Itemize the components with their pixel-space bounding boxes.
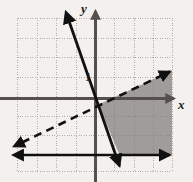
shaded-solution-region xyxy=(99,71,173,156)
coordinate-plane-figure: y x 1 xyxy=(0,0,193,182)
tick-label-one: 1 xyxy=(85,71,91,83)
x-axis-label: x xyxy=(178,98,185,111)
steep-boundary-line xyxy=(69,21,120,166)
y-axis-label: y xyxy=(81,2,87,15)
graph-canvas xyxy=(0,0,193,182)
